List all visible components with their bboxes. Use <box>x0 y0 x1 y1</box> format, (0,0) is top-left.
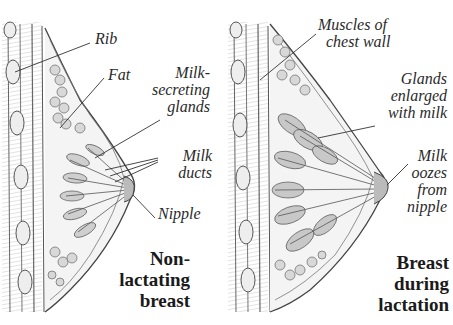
label-fat: Fat <box>108 66 130 83</box>
label-glands-enlarged-with-milk: Glands enlarged with milk <box>360 70 447 121</box>
label-milk-ducts: Milk ducts <box>160 147 212 181</box>
label-milk-secreting-glands: Milk- secreting glands <box>140 64 210 115</box>
caption-non-lactating: Non- lactating breast <box>108 248 190 311</box>
label-milk-oozes-from-nipple: Milk oozes from nipple <box>400 147 447 215</box>
breast-anatomy-diagram: Rib Fat Milk- secreting glands Milk duct… <box>0 0 453 325</box>
caption-lactation: Breast during lactation <box>360 252 449 315</box>
label-muscles-of-chest-wall: Muscles of chest wall <box>318 16 438 50</box>
label-nipple: Nipple <box>158 205 201 222</box>
label-rib: Rib <box>95 30 117 47</box>
